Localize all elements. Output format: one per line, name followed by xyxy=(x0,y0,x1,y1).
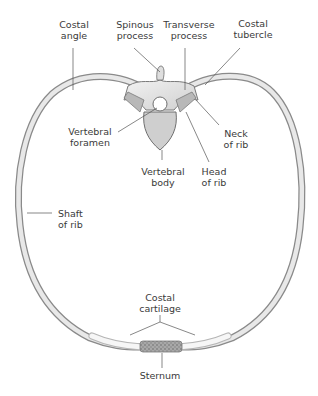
leader-costal-cartilage-left xyxy=(130,322,160,335)
label-neck-of-rib: Neck of rib xyxy=(218,128,254,150)
label-shaft-of-rib: Shaft of rib xyxy=(58,208,98,230)
label-vertebral-body: Vertebral body xyxy=(136,166,190,188)
leader-spinous-process xyxy=(134,48,160,72)
sternum-shape xyxy=(140,341,182,352)
label-costal-angle: Costal angle xyxy=(52,19,96,41)
label-head-of-rib: Head of rib xyxy=(196,166,232,188)
rib-vertebra-diagram xyxy=(0,0,318,396)
label-transverse-process: Transverse process xyxy=(160,19,218,41)
label-vertebral-foramen: Vertebral foramen xyxy=(62,126,118,148)
leader-neck-of-rib xyxy=(196,100,219,125)
right-rib xyxy=(180,76,302,347)
label-costal-tubercle: Costal tubercle xyxy=(228,18,278,40)
label-costal-cartilage: Costal cartilage xyxy=(130,292,190,314)
vertebra xyxy=(124,66,198,150)
label-sternum: Sternum xyxy=(130,370,190,381)
leader-costal-cartilage-right xyxy=(160,322,195,335)
leader-head-of-rib xyxy=(186,112,209,162)
label-spinous-process: Spinous process xyxy=(110,19,160,41)
